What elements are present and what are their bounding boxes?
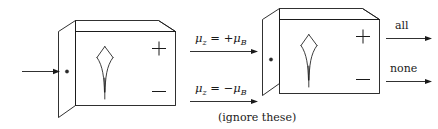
lower-channel-group: μz = −μB (ignore these) [190,81,296,124]
stern-gerlach-diagram: μz = +μB μz = −μB (ignore these) [0,0,438,129]
lower-channel-label: μz = −μB [195,81,247,97]
output-label-none: none [390,62,417,75]
output-all-group: all [386,19,432,41]
output-all-arrow [386,36,432,41]
output-none-arrow [386,79,432,84]
ignore-these-note: (ignore these) [218,111,296,124]
plus-sign-upper-channel [152,42,166,56]
first-stern-gerlach-box [59,21,176,118]
splitting-beam-symbol [97,47,113,100]
lower-channel-arrow [190,99,258,104]
output-label-all: all [395,19,409,32]
splitting-beam-symbol [301,35,317,88]
second-stern-gerlach-box [263,9,380,96]
upper-channel-group: μz = +μB [190,31,258,54]
output-none-group: none [386,62,432,84]
figure-root: μz = +μB μz = −μB (ignore these) [0,0,438,129]
upper-channel-arrow [190,49,258,54]
plus-sign-upper-channel [356,30,370,44]
incoming-beam-arrow [22,69,60,75]
entry-port-marker [269,58,272,61]
entry-port-marker [65,70,68,73]
upper-channel-label: μz = +μB [195,31,247,47]
